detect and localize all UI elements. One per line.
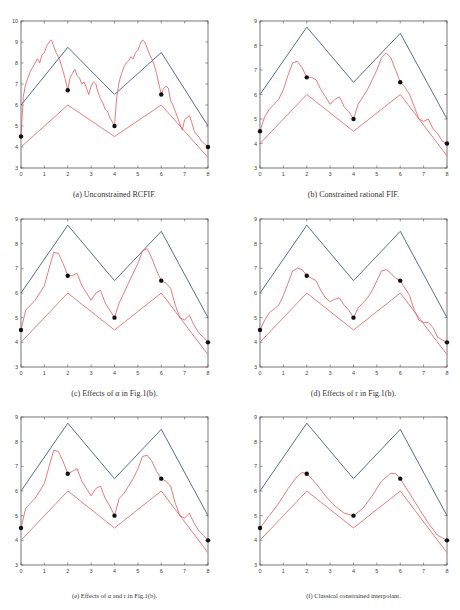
fractal-interpolant-line (260, 53, 447, 144)
lower-bound-line (21, 105, 208, 158)
lower-bound-line (260, 95, 447, 156)
y-tick-label: 4 (254, 339, 257, 345)
y-tick-label: 6 (15, 102, 18, 108)
data-point (305, 472, 309, 476)
x-tick-label: 5 (375, 568, 378, 574)
chart-panel-d: 0123456783456789 (260, 219, 447, 367)
x-tick-label: 1 (282, 171, 285, 177)
y-tick-label: 9 (254, 414, 257, 420)
x-tick-label: 2 (66, 171, 69, 177)
x-tick-label: 0 (19, 568, 22, 574)
chart-panel-f: 0123456783456789 (260, 417, 447, 565)
x-tick-label: 7 (422, 568, 425, 574)
y-tick-label: 4 (254, 141, 257, 147)
x-tick-label: 8 (206, 370, 209, 376)
x-tick-label: 2 (305, 568, 308, 574)
x-tick-label: 4 (352, 568, 355, 574)
data-point (159, 92, 163, 96)
chart-panel-c: 0123456783456789 (21, 219, 208, 367)
x-tick-label: 2 (66, 568, 69, 574)
caption-f: (f) Classical constrained interpolant. (250, 592, 457, 599)
x-tick-label: 0 (19, 370, 22, 376)
data-point (258, 129, 262, 133)
upper-bound-line (260, 27, 447, 119)
lower-bound-line (21, 293, 208, 355)
chart-panel-b: 0123456783456789 (260, 21, 447, 168)
fractal-interpolant-line (21, 249, 208, 343)
caption-a: (a) Unconstrained RCFIF. (11, 190, 218, 199)
x-tick-label: 4 (352, 370, 355, 376)
fractal-interpolant-line (21, 40, 208, 147)
x-tick-label: 2 (305, 370, 308, 376)
x-tick-label: 3 (90, 171, 93, 177)
y-tick-label: 6 (15, 290, 18, 296)
x-tick-label: 3 (90, 568, 93, 574)
x-tick-label: 0 (258, 171, 261, 177)
data-point (19, 328, 23, 332)
y-tick-label: 8 (254, 439, 257, 445)
x-tick-label: 0 (19, 171, 22, 177)
x-tick-label: 3 (329, 370, 332, 376)
caption-b: (b) Constrained rational FIF. (250, 190, 457, 199)
y-tick-label: 7 (15, 265, 18, 271)
y-tick-label: 9 (15, 216, 18, 222)
data-point (206, 538, 210, 542)
upper-bound-line (260, 225, 447, 318)
data-point (445, 340, 449, 344)
y-tick-label: 7 (254, 463, 257, 469)
data-point (305, 75, 309, 79)
data-point (19, 526, 23, 530)
y-tick-label: 5 (254, 116, 257, 122)
x-tick-label: 5 (136, 370, 139, 376)
caption-e: (e) Effects of α and r in Fig.1(b). (11, 592, 218, 599)
chart-svg-e: 0123456783456789 (21, 417, 208, 565)
x-tick-label: 8 (445, 171, 448, 177)
x-tick-label: 6 (399, 370, 402, 376)
x-tick-label: 6 (160, 568, 163, 574)
upper-bound-line (260, 423, 447, 516)
y-tick-label: 8 (15, 60, 18, 66)
data-point (398, 278, 402, 282)
upper-bound-line (21, 47, 208, 126)
y-tick-label: 5 (15, 315, 18, 321)
x-tick-label: 8 (445, 568, 448, 574)
classical-interpolant-line (260, 473, 447, 541)
x-tick-label: 4 (113, 370, 116, 376)
x-tick-label: 4 (113, 171, 116, 177)
data-point (445, 538, 449, 542)
x-tick-label: 1 (43, 171, 46, 177)
y-tick-label: 9 (15, 39, 18, 45)
x-tick-label: 7 (183, 171, 186, 177)
x-tick-label: 2 (305, 171, 308, 177)
x-tick-label: 2 (66, 370, 69, 376)
chart-panel-a: 012345678345678910 (21, 21, 208, 168)
data-point (66, 88, 70, 92)
x-tick-label: 4 (352, 171, 355, 177)
y-tick-label: 8 (15, 241, 18, 247)
x-tick-label: 8 (445, 370, 448, 376)
data-point (445, 141, 449, 145)
lower-bound-line (21, 491, 208, 553)
x-tick-label: 6 (399, 568, 402, 574)
data-point (66, 472, 70, 476)
y-tick-label: 3 (15, 165, 18, 171)
x-tick-label: 5 (375, 370, 378, 376)
data-point (305, 274, 309, 278)
x-tick-label: 3 (329, 568, 332, 574)
data-point (19, 134, 23, 138)
data-point (159, 278, 163, 282)
axes-frame (21, 417, 208, 565)
y-tick-label: 5 (15, 513, 18, 519)
y-tick-label: 8 (254, 43, 257, 49)
y-tick-label: 9 (254, 18, 257, 24)
lower-bound-line (260, 293, 447, 355)
y-tick-label: 3 (254, 364, 257, 370)
data-point (206, 340, 210, 344)
x-tick-label: 1 (43, 568, 46, 574)
x-tick-label: 1 (282, 370, 285, 376)
chart-svg-f: 0123456783456789 (260, 417, 447, 565)
chart-svg-d: 0123456783456789 (260, 219, 447, 367)
x-tick-label: 7 (183, 568, 186, 574)
y-tick-label: 7 (15, 81, 18, 87)
y-tick-label: 9 (15, 414, 18, 420)
